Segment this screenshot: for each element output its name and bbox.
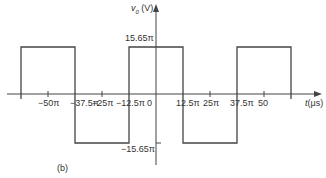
x-axis-unit: (μs) bbox=[308, 98, 324, 108]
x-tick-label: −12.5π bbox=[116, 99, 145, 108]
level-low-label: −15.65π bbox=[121, 145, 155, 154]
x-tick-label: 50 bbox=[258, 99, 268, 108]
x-tick-label: 0 bbox=[147, 99, 152, 108]
y-axis-arrow-icon bbox=[153, 4, 159, 12]
level-high-label: 15.65π bbox=[125, 34, 154, 43]
x-tick-label: −25π bbox=[92, 99, 113, 108]
x-tick-label: −50π bbox=[38, 99, 59, 108]
x-axis-label: t(μs) bbox=[305, 99, 323, 108]
x-tick-label: 25π bbox=[203, 99, 219, 108]
y-axis-unit: (V) bbox=[139, 3, 154, 13]
panel-label: (b) bbox=[57, 164, 68, 173]
x-tick-label: 37.5π bbox=[230, 99, 254, 108]
square-wave-plot bbox=[0, 0, 326, 178]
x-axis-arrow-icon bbox=[314, 91, 322, 97]
y-axis-label: v0 (V) bbox=[131, 4, 153, 15]
x-tick-label: 12.5π bbox=[176, 99, 200, 108]
